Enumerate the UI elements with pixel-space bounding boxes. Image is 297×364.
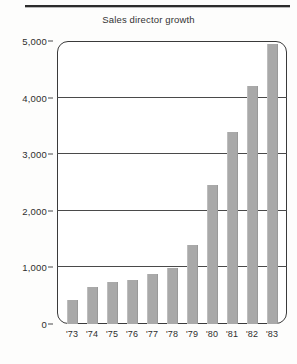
bar bbox=[167, 268, 178, 324]
bar-slot bbox=[122, 41, 142, 324]
bar bbox=[227, 132, 238, 324]
x-axis-tick-label: '80 bbox=[202, 329, 222, 339]
bar-series bbox=[57, 41, 287, 324]
bar-slot bbox=[182, 41, 202, 324]
x-axis-tick-label: '82 bbox=[242, 329, 262, 339]
y-axis-tick-label: 5,000 bbox=[22, 36, 47, 47]
bar-slot bbox=[82, 41, 102, 324]
bar-slot bbox=[242, 41, 262, 324]
bar bbox=[67, 300, 78, 324]
chart-title: Sales director growth bbox=[0, 14, 297, 25]
bar-slot bbox=[222, 41, 242, 324]
x-axis-tick-label: '73 bbox=[62, 329, 82, 339]
bar-slot bbox=[102, 41, 122, 324]
x-axis-tick-label: '74 bbox=[82, 329, 102, 339]
x-axis-tick-label: '75 bbox=[102, 329, 122, 339]
x-axis-tick-label: '77 bbox=[142, 329, 162, 339]
bar bbox=[187, 245, 198, 324]
y-axis-tick-mark bbox=[48, 210, 53, 211]
y-axis-tick-mark bbox=[48, 97, 53, 98]
y-axis-tick-mark bbox=[48, 154, 53, 155]
bar bbox=[127, 280, 138, 324]
y-axis-tick-mark bbox=[48, 41, 53, 42]
y-axis-tick-label: 0 bbox=[42, 319, 47, 330]
chart-page: Sales director growth 01,0002,0003,0004,… bbox=[0, 0, 297, 364]
x-axis-tick-label: '78 bbox=[162, 329, 182, 339]
bar bbox=[267, 44, 278, 324]
bar-slot bbox=[62, 41, 82, 324]
bar-slot bbox=[162, 41, 182, 324]
bar bbox=[247, 86, 258, 324]
y-axis-tick-label: 4,000 bbox=[22, 92, 47, 103]
bar-slot bbox=[202, 41, 222, 324]
y-axis-tick-mark bbox=[48, 324, 53, 325]
x-axis-tick-label: '79 bbox=[182, 329, 202, 339]
y-axis-tick-label: 2,000 bbox=[22, 205, 47, 216]
x-axis-tick-label: '83 bbox=[262, 329, 282, 339]
page-top-rule bbox=[25, 5, 290, 7]
bar bbox=[107, 282, 118, 324]
bar-slot bbox=[262, 41, 282, 324]
x-axis-tick-label: '81 bbox=[222, 329, 242, 339]
y-axis-tick-label: 3,000 bbox=[22, 149, 47, 160]
x-axis-tick-label: '76 bbox=[122, 329, 142, 339]
x-axis-labels: '73'74'75'76'77'78'79'80'81'82'83 bbox=[57, 329, 287, 339]
plot-area bbox=[57, 41, 287, 324]
bar-slot bbox=[142, 41, 162, 324]
bar bbox=[147, 274, 158, 324]
bar bbox=[87, 287, 98, 324]
y-axis-tick-label: 1,000 bbox=[22, 262, 47, 273]
bar bbox=[207, 185, 218, 324]
y-axis-tick-mark bbox=[48, 267, 53, 268]
y-axis-labels: 01,0002,0003,0004,0005,000 bbox=[0, 41, 53, 324]
